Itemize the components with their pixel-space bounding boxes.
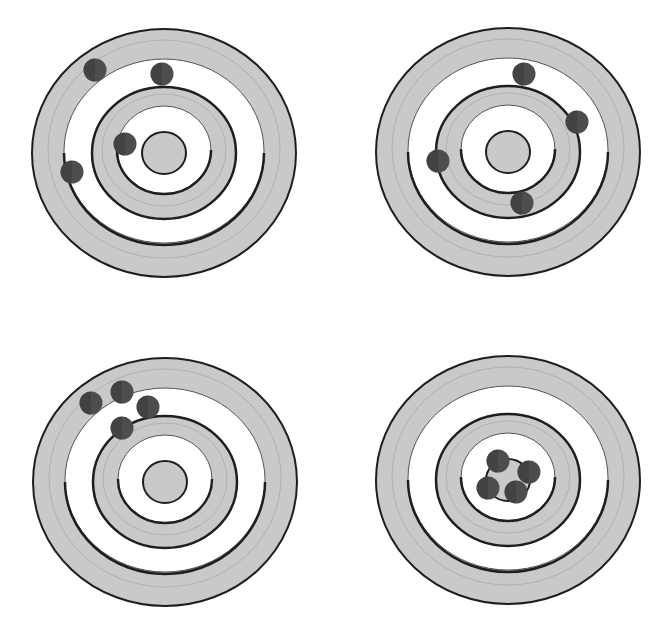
bullseye <box>486 131 530 173</box>
bullseye <box>142 132 186 174</box>
shot-hole <box>477 477 500 500</box>
target-top-right <box>376 28 640 276</box>
shot-hole <box>427 150 450 173</box>
shot-hole <box>137 396 160 419</box>
shot-hole <box>511 192 534 215</box>
shot-hole <box>513 63 536 86</box>
shot-hole <box>61 161 84 184</box>
shot-hole <box>114 133 137 156</box>
bullseye <box>143 461 187 503</box>
target-bottom-right <box>376 356 640 604</box>
shot-hole <box>151 63 174 86</box>
target-bottom-left <box>33 358 297 606</box>
shot-hole <box>505 481 528 504</box>
shot-hole <box>566 111 589 134</box>
shot-hole <box>84 59 107 82</box>
shot-hole <box>111 381 134 404</box>
shot-hole <box>487 450 510 473</box>
shot-hole <box>111 417 134 440</box>
shot-hole <box>518 461 541 484</box>
target-top-left <box>32 29 296 277</box>
shot-hole <box>80 392 103 415</box>
targets-diagram <box>0 0 667 619</box>
